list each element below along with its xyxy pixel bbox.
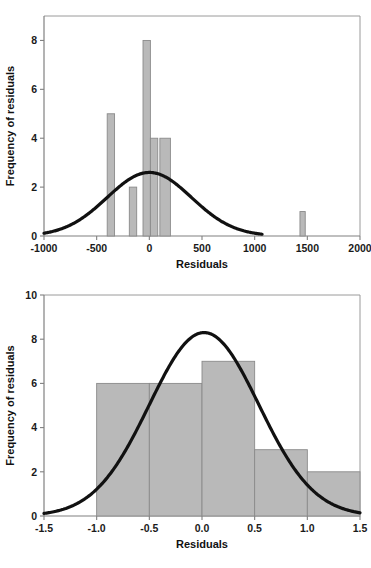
top-residual-histogram: 02468-1000-5000500100015002000ResidualsF…: [0, 0, 371, 284]
top-chart-panel: 02468-1000-5000500100015002000ResidualsF…: [0, 0, 371, 284]
y-tick-label: 10: [25, 289, 37, 301]
x-tick-label: -1.0: [88, 522, 106, 534]
y-tick-label: 6: [31, 377, 37, 389]
x-tick-label: 1.5: [353, 522, 368, 534]
histogram-bar: [97, 383, 150, 516]
histogram-bar: [160, 138, 171, 236]
y-tick-label: 0: [31, 230, 37, 242]
y-axis-title: Frequency of residuals: [4, 66, 16, 186]
x-tick-label: 500: [193, 242, 211, 254]
x-tick-label: 2000: [348, 242, 371, 254]
histogram-bar: [202, 361, 255, 516]
x-tick-label: 1500: [296, 242, 320, 254]
bottom-chart-panel: 0246810-1.5-1.0-0.50.00.51.01.5Residuals…: [0, 284, 371, 568]
y-tick-label: 2: [31, 181, 37, 193]
y-tick-label: 4: [31, 132, 37, 144]
y-tick-label: 6: [31, 83, 37, 95]
x-tick-label: 0.0: [195, 522, 210, 534]
histogram-bar: [300, 212, 305, 236]
y-tick-label: 2: [31, 466, 37, 478]
y-tick-label: 4: [31, 421, 37, 433]
histogram-bar: [150, 138, 157, 236]
x-axis-title: Residuals: [176, 538, 228, 550]
plot-frame: [44, 16, 360, 236]
x-tick-label: 1.0: [300, 522, 315, 534]
x-axis-title: Residuals: [176, 258, 228, 270]
histogram-bar: [255, 450, 308, 516]
y-axis-title: Frequency of residuals: [4, 345, 16, 465]
y-tick-label: 8: [31, 333, 37, 345]
x-tick-label: -500: [86, 242, 107, 254]
histogram-bar: [149, 383, 202, 516]
y-tick-label: 8: [31, 34, 37, 46]
x-tick-label: -0.5: [140, 522, 158, 534]
x-tick-label: -1.5: [35, 522, 53, 534]
figure-page: 02468-1000-5000500100015002000ResidualsF…: [0, 0, 371, 568]
y-tick-label: 0: [31, 510, 37, 522]
bottom-residual-histogram: 0246810-1.5-1.0-0.50.00.51.01.5Residuals…: [0, 284, 371, 568]
histogram-bar: [143, 40, 150, 236]
x-tick-label: 0.5: [247, 522, 262, 534]
x-tick-label: 0: [146, 242, 152, 254]
x-tick-label: 1000: [243, 242, 267, 254]
histogram-bar: [129, 187, 136, 236]
x-tick-label: -1000: [31, 242, 58, 254]
histogram-bar: [107, 114, 114, 236]
